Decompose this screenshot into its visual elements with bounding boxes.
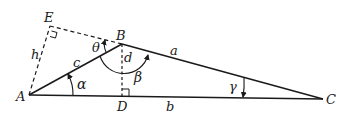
label-side-a: a <box>170 43 178 58</box>
label-side-h: h <box>31 47 39 62</box>
label-angle-theta: θ <box>92 40 100 55</box>
angle-theta-arc <box>104 40 106 52</box>
label-side-d: d <box>124 50 132 65</box>
label-point-D: D <box>116 99 128 114</box>
side-a <box>122 44 323 99</box>
right-angle-mark-E <box>50 31 57 38</box>
label-point-B: B <box>115 28 126 43</box>
label-angle-alpha: α <box>77 76 87 92</box>
angle-gamma-arc <box>243 78 244 97</box>
label-point-A: A <box>15 89 25 104</box>
label-point-E: E <box>43 10 54 25</box>
label-side-c: c <box>73 55 81 70</box>
label-angle-gamma: γ <box>229 79 237 94</box>
label-point-C: C <box>326 92 336 107</box>
segment-EB <box>50 26 122 44</box>
label-side-b: b <box>166 99 174 114</box>
angle-alpha-arc <box>68 74 73 96</box>
triangle-diagram: E B A D C h c d a b α β θ γ <box>0 0 355 120</box>
right-angle-mark-D <box>122 89 129 96</box>
label-angle-beta: β <box>133 69 142 85</box>
